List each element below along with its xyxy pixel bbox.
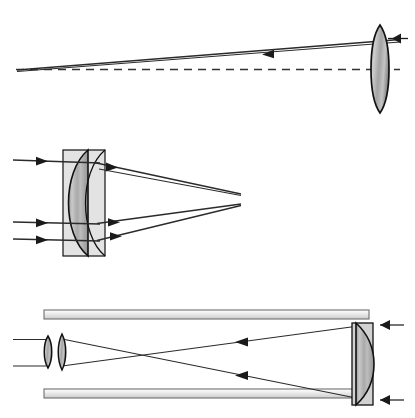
incoming-arrow-objective-top [380, 320, 404, 330]
ray-top-arrow-bottom-panel [235, 337, 248, 346]
eyepiece-element-rear [58, 334, 66, 370]
ray-upper-top-panel [17, 40, 400, 71]
tube-wall-upper [44, 310, 369, 319]
ray-in-low-arrow [36, 236, 48, 245]
panel-middle [5, 150, 243, 256]
ray-in-mid-arrow [36, 219, 48, 228]
ray-direction-arrow-left [262, 50, 274, 58]
lens-biconvex-top [371, 25, 389, 113]
ray-in-top-arrow [36, 157, 48, 166]
eyepiece-element-front [44, 336, 52, 368]
ray-out-top-b [99, 169, 241, 196]
panel-bottom [13, 310, 404, 405]
ray-out-low-arrow [110, 232, 122, 240]
panel-top [16, 25, 408, 113]
ray-objective-top-to-eyepiece [62, 325, 366, 366]
ray-out-top-arrow [106, 163, 118, 172]
incoming-arrow-objective-bottom [380, 395, 404, 405]
ray-lower-top-panel [17, 42, 400, 72]
optical-diagram-figure: Oblique parallel rays converging through… [0, 0, 415, 418]
diagram-canvas [0, 0, 415, 418]
ray-out-mid [97, 204, 241, 224]
ray-out-mid-arrow [108, 218, 120, 226]
ray-bottom-arrow-bottom-panel [235, 371, 248, 380]
